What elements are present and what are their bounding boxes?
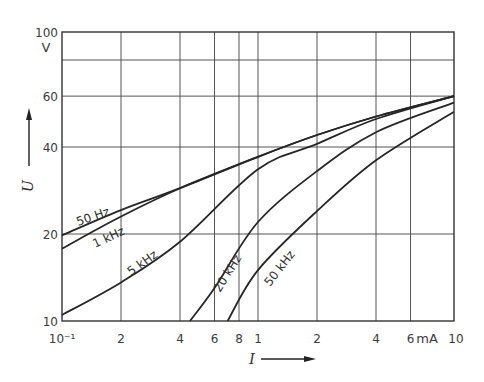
y-tick-label: 40 [43,141,58,155]
x-tick-label: 4 [176,332,184,346]
x-tick-label: 2 [313,332,321,346]
x-tick-label: 6 [211,332,219,346]
x-tick-label: 6 [407,332,415,346]
tick-labels: 10⁻¹246812461010204060100 [35,26,464,346]
voltage-current-chart: 10⁻¹246812461010204060100 V mA U I 50 Hz… [0,0,484,382]
curve-label-5khz: 5 kHz [125,247,161,278]
grid [62,32,454,321]
y-axis-name: U [20,179,36,192]
x-tick-label: 4 [372,332,380,346]
x-tick-label: 10⁻¹ [49,332,76,346]
curve-label-50khz: 50 kHz [261,248,297,289]
y-tick-label: 100 [35,26,58,40]
x-tick-label: 10 [448,332,463,346]
y-axis-title: U [20,108,36,192]
x-tick-label: 1 [254,332,262,346]
x-axis-title: I [248,351,316,367]
x-unit-label: mA [416,331,438,346]
x-axis-name: I [248,351,255,367]
y-axis-arrowhead-icon [26,108,32,120]
x-tick-label: 2 [117,332,125,346]
x-tick-label: 8 [235,332,243,346]
y-tick-label: 60 [43,90,58,104]
y-tick-label: 10 [43,315,58,329]
y-tick-label: 20 [43,228,58,242]
y-unit-label: V [42,40,51,55]
x-axis-arrowhead-icon [304,356,316,362]
curve-50khz [228,112,454,321]
